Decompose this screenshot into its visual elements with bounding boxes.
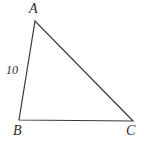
triangle-drawing (0, 0, 147, 142)
triangle-figure: A B C 10 (0, 0, 147, 142)
vertex-label-b: B (13, 124, 22, 138)
side-length-label-ab: 10 (6, 64, 18, 76)
vertex-label-c: C (126, 124, 135, 138)
triangle-outline (19, 21, 133, 121)
vertex-label-a: A (29, 2, 38, 16)
